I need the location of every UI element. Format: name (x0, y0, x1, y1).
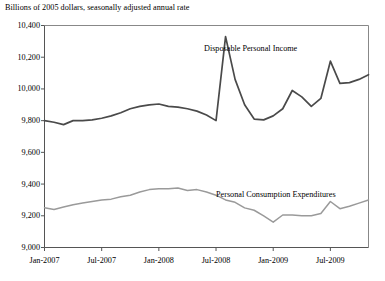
chart-axes (41, 26, 369, 252)
y-axis-tick-label: 9,000 (0, 243, 40, 252)
y-axis-tick-label: 10,200 (0, 53, 40, 62)
chart-figure: Billions of 2005 dollars, seasonally adj… (0, 0, 385, 281)
y-axis-tick-label: 9,200 (0, 211, 40, 220)
y-axis-tick-label: 9,800 (0, 116, 40, 125)
x-axis-tick-label: Jul-2009 (295, 256, 365, 265)
y-axis-tick-label: 10,000 (0, 84, 40, 93)
series-label-personal-consumption-expenditures: Personal Consumption Expenditures (216, 190, 336, 199)
y-axis-tick-label: 10,400 (0, 21, 40, 30)
chart-plot-area (0, 0, 385, 281)
series-label-disposable-personal-income: Disposable Personal Income (204, 44, 297, 53)
y-axis-tick-label: 9,600 (0, 148, 40, 157)
y-axis-tick-label: 9,400 (0, 180, 40, 189)
